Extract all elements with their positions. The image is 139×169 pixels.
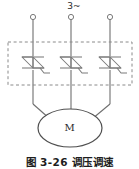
triac-l3-gate-lead	[117, 68, 127, 73]
phase-l3-terminal-icon	[107, 14, 112, 19]
triac-phase-l3	[99, 57, 127, 73]
phase-l2-terminal-icon	[68, 14, 73, 19]
motor-label: M	[57, 121, 82, 135]
supply-terminals-group	[30, 14, 112, 19]
figure-caption: 图 3-26 调压调速	[26, 154, 114, 169]
triac-l2-right-triangle	[71, 57, 82, 68]
figure-container: 3~ M 图 3-26 调压调速	[0, 0, 139, 169]
phase-l1-terminal-icon	[30, 14, 35, 19]
triac-l3-right-triangle	[110, 57, 121, 68]
triac-l1-gate-lead	[40, 68, 50, 73]
triac-l2-left-triangle	[60, 57, 71, 68]
phase-wires-group	[33, 20, 110, 119]
supply-label: 3~	[58, 0, 90, 13]
triac-phase-l1	[22, 57, 50, 73]
figure-caption-row: 图 3-26 调压调速	[0, 152, 139, 169]
triac-l2-gate-lead	[78, 68, 88, 73]
triac-l3-left-triangle	[99, 57, 110, 68]
triac-l1-left-triangle	[22, 57, 33, 68]
controller-dashed-enclosure	[8, 42, 132, 85]
triac-phase-l2	[60, 57, 88, 73]
circuit-diagram	[0, 0, 139, 169]
triac-l1-right-triangle	[33, 57, 44, 68]
